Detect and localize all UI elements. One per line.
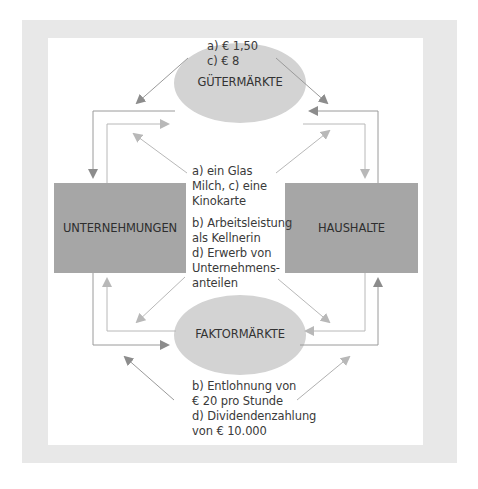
label-top: a) € 1,50 c) € 8 <box>207 39 258 69</box>
label-top-line-2: c) € 8 <box>207 54 258 69</box>
firms-label: UNTERNEHMUNGEN <box>54 221 186 235</box>
label-middle-factors-line-5: anteilen <box>192 276 292 291</box>
label-middle-goods-line-1: a) ein Glas <box>192 164 267 179</box>
label-middle-goods-line-2: Milch, c) eine <box>192 179 267 194</box>
flow-factors-to-firms <box>107 279 176 331</box>
label-bottom-line-4: von € 10.000 <box>192 424 316 439</box>
flow-firms-to-goods <box>107 124 168 183</box>
flow-factors-to-households-money <box>300 279 378 345</box>
goods-market-label: GÜTERMÄRKTE <box>174 75 306 89</box>
flow-goods-to-households <box>303 124 365 177</box>
pointer-mid-upper-right <box>276 131 329 173</box>
flow-goods-to-firms-money <box>93 111 175 177</box>
label-middle-factors-line-3: d) Erwerb von <box>192 246 292 261</box>
households-label: HAUSHALTE <box>285 221 418 235</box>
pointer-mid-lower-left <box>137 277 185 322</box>
label-middle-goods-line-3: Kinokarte <box>192 194 267 209</box>
label-bottom-line-1: b) Entlohnung von <box>192 379 316 394</box>
flow-households-to-factors <box>306 273 365 331</box>
label-bottom-line-2: € 20 pro Stunde <box>192 394 316 409</box>
label-middle-factors-line-2: als Kellnerin <box>192 231 292 246</box>
label-middle-factors-line-1: b) Arbeitsleistung <box>192 216 292 231</box>
label-middle-factors-line-4: Unternehmens- <box>192 261 292 276</box>
flow-firms-to-factors-money <box>93 273 168 345</box>
flow-households-to-goods-money <box>310 111 378 183</box>
pointer-mid-upper-left <box>134 134 187 173</box>
label-middle-factors: b) Arbeitsleistung als Kellnerin d) Erwe… <box>192 216 292 291</box>
label-bottom-line-3: d) Dividendenzahlung <box>192 409 316 424</box>
label-top-line-1: a) € 1,50 <box>207 39 258 54</box>
pointer-bottom-left <box>125 357 174 400</box>
label-bottom: b) Entlohnung von € 20 pro Stunde d) Div… <box>192 379 316 439</box>
factor-market-label: FAKTORMÄRKTE <box>174 327 306 341</box>
label-middle-goods: a) ein Glas Milch, c) eine Kinokarte <box>192 164 267 209</box>
